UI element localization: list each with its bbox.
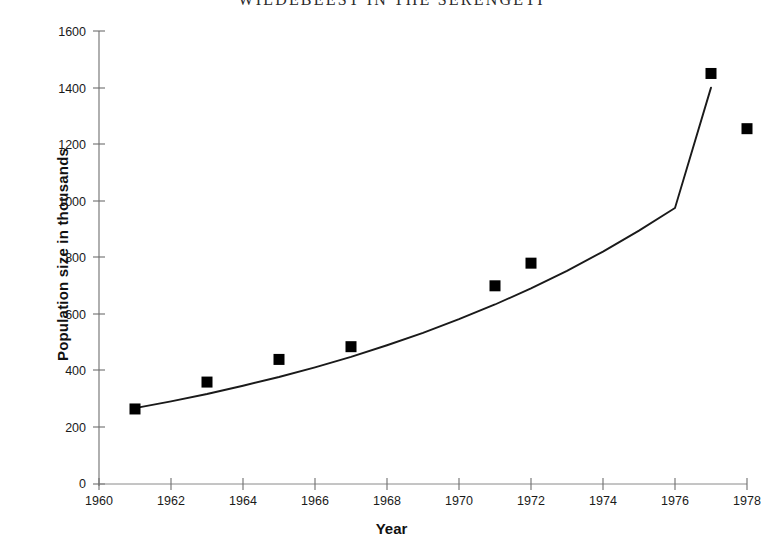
data-point: [742, 123, 753, 134]
x-axis: [99, 478, 747, 490]
plot-area: [0, 0, 783, 550]
data-point: [706, 68, 717, 79]
fitted-curve: [135, 88, 711, 408]
data-point: [202, 377, 213, 388]
data-point: [490, 280, 501, 291]
data-point: [346, 341, 357, 352]
data-point: [130, 403, 141, 414]
data-point-group: [130, 68, 753, 415]
data-point: [526, 258, 537, 269]
y-axis: [93, 31, 105, 486]
data-point: [274, 354, 285, 365]
chart-figure: WILDEBEEST IN THE SERENGETI Population s…: [0, 0, 783, 550]
